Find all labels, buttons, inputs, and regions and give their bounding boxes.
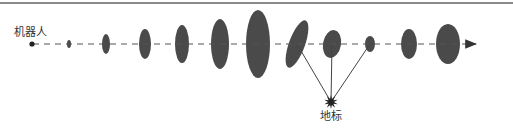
robot-start-point: [29, 41, 34, 46]
robot-label: 机器人: [14, 27, 47, 38]
landmark-star-icon: [324, 95, 337, 109]
slam-uncertainty-diagram: [0, 0, 513, 135]
landmark-label: 地标: [320, 111, 342, 122]
